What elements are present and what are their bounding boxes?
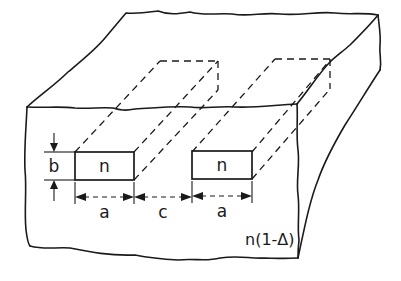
guide-left-core: n [75,152,134,180]
guide-right-core: n [192,151,252,179]
dimension-c: c [134,193,192,222]
right-back-edge [378,15,381,70]
width-label-a-right: a [217,201,227,221]
dimension-a-right: a [192,192,252,221]
dimension-b: b [44,133,75,201]
dimension-a-left: a [75,193,134,222]
waveguide-diagram: n n b a c a [0,0,401,281]
core-right-index-label: n [217,155,228,175]
front-right-edge [297,104,299,258]
front-left-edge [25,107,30,246]
gap-label-c: c [158,202,167,222]
front-top-edge [27,104,297,110]
width-label-a-left: a [99,202,109,222]
height-label-b: b [49,156,60,176]
right-diagonal-edge [298,70,380,258]
cladding-index-label: n(1-Δ) [245,230,295,249]
core-left-index-label: n [99,156,110,176]
cladding-block [25,11,381,260]
